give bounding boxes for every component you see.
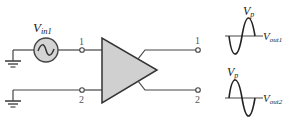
input-node-1: [80, 48, 85, 53]
source-label: Vin1: [33, 20, 52, 36]
waveform-1-peak-label: Vp: [243, 4, 254, 19]
output-node-1: [196, 48, 201, 53]
input-node-2: [80, 88, 85, 93]
wire-output2: [138, 81, 196, 90]
output-label-1: 1: [195, 35, 200, 46]
input-label-2: 2: [79, 94, 84, 105]
output-label-2: 2: [195, 94, 200, 105]
ac-source: [34, 38, 58, 62]
waveform-out2: Vp Vout2: [225, 65, 283, 116]
output-node-2: [196, 88, 201, 93]
waveform-2-peak-label: Vp: [227, 65, 238, 80]
amplifier-triangle-icon: [102, 38, 157, 103]
ground-2: [5, 90, 21, 107]
waveform-2-output-label: Vout2: [263, 92, 283, 106]
waveform-1-output-label: Vout1: [263, 30, 282, 44]
wire-output1: [138, 50, 196, 59]
ground-1: [5, 50, 21, 67]
input-label-1: 1: [79, 36, 84, 47]
differential-amplifier-diagram: Vin1 1 2 1 2 Vp Vout1 Vp Vout2: [0, 0, 283, 127]
waveform-out1: Vp Vout1: [225, 4, 282, 54]
